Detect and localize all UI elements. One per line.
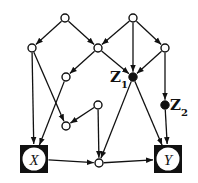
edge-z2-to-y — [165, 110, 167, 144]
node-a[interactable] — [61, 14, 69, 22]
z2-letter: Z — [170, 96, 181, 114]
node-g[interactable] — [62, 122, 70, 130]
edge-h-to-g — [70, 108, 94, 124]
node-f[interactable] — [62, 73, 70, 81]
edge-c-to-f — [70, 51, 95, 73]
z2-label: Z 2 — [170, 96, 188, 118]
edge-z1-to-y — [135, 81, 162, 145]
z1-subscript: 1 — [121, 79, 128, 90]
z2-subscript: 2 — [181, 107, 188, 118]
edge-b-to-x — [32, 53, 34, 144]
edge-d-to-e — [136, 21, 161, 44]
z1-letter: Z — [110, 68, 121, 86]
node-z2[interactable] — [161, 101, 169, 109]
edge-a-to-c — [68, 21, 94, 44]
causal-diagram: X Y Z 1 Z 2 — [0, 0, 198, 183]
node-x-label: X — [28, 152, 39, 168]
edge-m-to-y — [104, 160, 153, 163]
node-z1[interactable] — [129, 73, 137, 81]
node-d[interactable] — [129, 14, 137, 22]
edge-a-to-b — [36, 21, 62, 44]
edge-x-to-m — [48, 160, 93, 163]
node-c[interactable] — [94, 44, 102, 52]
edge-z1-to-m — [101, 81, 131, 158]
node-y[interactable]: Y — [154, 145, 182, 173]
node-m[interactable] — [95, 159, 103, 167]
edge-d-to-c — [102, 21, 129, 45]
edge-e-to-z1 — [137, 51, 162, 73]
edge-h-to-m — [98, 110, 99, 158]
node-b[interactable] — [28, 44, 36, 52]
edges — [32, 21, 167, 163]
node-x[interactable]: X — [20, 145, 48, 173]
edge-b-to-g — [34, 52, 64, 121]
node-e[interactable] — [161, 44, 169, 52]
node-h[interactable] — [94, 101, 102, 109]
